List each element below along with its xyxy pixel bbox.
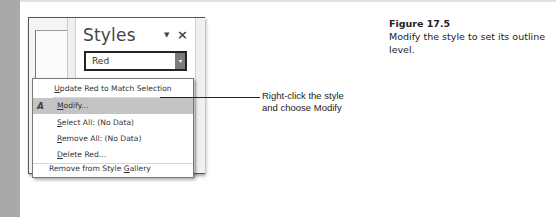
style-selector[interactable]: Red ▾ xyxy=(84,51,187,71)
callout-line-1: Right-click the style xyxy=(262,90,344,102)
page-margin-band xyxy=(0,0,20,217)
selected-style-value: Red xyxy=(92,56,109,66)
menu-item-label: pdate Red to Match Selection xyxy=(60,84,172,93)
menu-item-remove-from-gallery[interactable]: Remove from Style Gallery xyxy=(33,161,193,177)
chevron-down-icon[interactable]: ▾ xyxy=(175,53,185,69)
figure-caption: Figure 17.5 Modify the style to set its … xyxy=(389,17,556,56)
menu-item-label: allery xyxy=(130,164,151,173)
pane-scrollbar[interactable] xyxy=(195,18,205,173)
menu-item-select-all[interactable]: Select All: (No Data) xyxy=(33,115,193,131)
figure-caption-text: Modify the style to set its outline leve… xyxy=(389,30,556,56)
callout-line-2: and choose Modify xyxy=(262,102,344,114)
menu-item-remove-all[interactable]: Remove All: (No Data) xyxy=(33,131,193,147)
menu-item-label: Remove from Style xyxy=(49,164,124,173)
menu-item-update-to-match[interactable]: Update Red to Match Selection xyxy=(33,81,193,97)
style-context-menu: Update Red to Match Selection A Modify..… xyxy=(32,78,194,178)
close-icon[interactable]: × xyxy=(177,27,188,42)
styles-pane-controls: ▼ × xyxy=(164,27,188,42)
styles-pane-title: Styles xyxy=(83,25,136,45)
modify-style-icon: A xyxy=(37,98,44,114)
menu-item-label: elect All: (No Data) xyxy=(62,118,134,127)
menu-item-label: emove All: (No Data) xyxy=(62,134,141,143)
pane-options-icon[interactable]: ▼ xyxy=(164,31,169,39)
menu-item-label: elete Red... xyxy=(63,150,106,159)
figure-number: Figure 17.5 xyxy=(389,17,556,30)
page-top-rule xyxy=(20,0,556,2)
menu-item-label: odify... xyxy=(64,101,89,110)
callout-text: Right-click the style and choose Modify xyxy=(262,90,344,114)
callout-leader-line xyxy=(160,97,260,98)
menu-item-modify[interactable]: A Modify... xyxy=(33,98,193,114)
